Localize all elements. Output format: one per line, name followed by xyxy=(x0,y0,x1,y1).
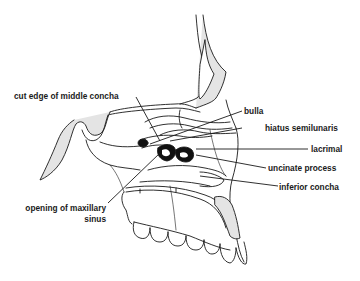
label-opening-maxillary-line2: sinus xyxy=(14,214,106,224)
leader-uncinate xyxy=(196,155,266,168)
label-hiatus-semilunaris: hiatus semilunaris xyxy=(265,123,338,133)
label-cut-edge-middle-concha: cut edge of middle concha xyxy=(14,91,119,101)
anatomy-drawing xyxy=(0,0,360,281)
nasal-cavity-diagram: cut edge of middle concha bulla hiatus s… xyxy=(0,0,360,281)
label-bulla: bulla xyxy=(244,106,263,116)
label-opening-maxillary-line1: opening of maxillary xyxy=(14,203,106,213)
label-uncinate-process: uncinate process xyxy=(268,163,336,173)
leader-inferior-concha xyxy=(200,176,278,186)
leader-opening xyxy=(108,153,160,203)
label-lacrimal: lacrimal xyxy=(311,144,342,154)
leader-cut-edge xyxy=(136,97,160,141)
label-inferior-concha: inferior concha xyxy=(279,182,339,192)
